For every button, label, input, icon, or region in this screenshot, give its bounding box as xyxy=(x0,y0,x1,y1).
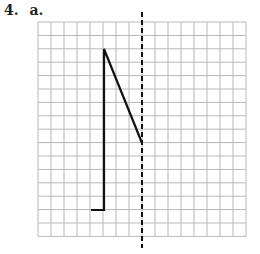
grid-diagram xyxy=(0,0,260,254)
